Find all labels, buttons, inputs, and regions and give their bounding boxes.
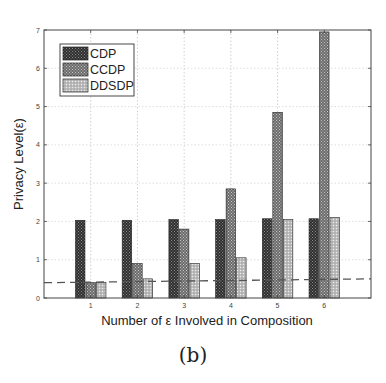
y-tick-label: 4 bbox=[36, 141, 40, 148]
bar-ccdp-6 bbox=[320, 32, 330, 298]
x-tick-label: 3 bbox=[182, 302, 186, 309]
x-tick-label: 4 bbox=[229, 302, 233, 309]
bar-ccdp-5 bbox=[273, 112, 283, 298]
y-axis-label: Privacy Level(ε) bbox=[11, 118, 26, 210]
bar-ddsdp-4 bbox=[237, 258, 247, 298]
x-tick-label: 5 bbox=[276, 302, 280, 309]
y-tick-label: 5 bbox=[36, 103, 40, 110]
legend-swatch-ddsdp bbox=[63, 79, 88, 92]
y-tick-label: 3 bbox=[36, 180, 40, 187]
x-tick-label: 6 bbox=[322, 302, 326, 309]
legend-label-ddsdp: DDSDP bbox=[90, 79, 134, 93]
bar-cdp-3 bbox=[169, 220, 179, 298]
bar-chart: 01234567123456 CDPCCDPDDSDP Number of ε … bbox=[0, 0, 386, 383]
bar-cdp-2 bbox=[122, 220, 132, 298]
legend-label-cdp: CDP bbox=[90, 47, 116, 61]
bar-cdp-5 bbox=[262, 219, 272, 298]
y-tick-label: 7 bbox=[36, 27, 40, 34]
y-tick-label: 1 bbox=[36, 256, 40, 263]
legend-label-ccdp: CCDP bbox=[90, 63, 125, 77]
bar-ddsdp-1 bbox=[96, 283, 106, 298]
bar-cdp-4 bbox=[216, 220, 226, 298]
x-tick-label: 1 bbox=[89, 302, 93, 309]
bar-ccdp-2 bbox=[133, 264, 143, 298]
figure-caption: (b) bbox=[0, 343, 386, 367]
legend-swatch-ccdp bbox=[63, 63, 88, 76]
bar-cdp-6 bbox=[309, 219, 319, 298]
bar-cdp-1 bbox=[75, 220, 85, 298]
y-tick-label: 0 bbox=[36, 295, 40, 302]
legend: CDPCCDPDDSDP bbox=[60, 44, 134, 96]
y-tick-label: 6 bbox=[36, 65, 40, 72]
bar-ccdp-4 bbox=[226, 189, 236, 298]
x-axis-label: Number of ε Involved in Composition bbox=[101, 313, 313, 328]
bar-ddsdp-5 bbox=[283, 220, 293, 298]
bar-ccdp-3 bbox=[179, 229, 189, 298]
legend-swatch-cdp bbox=[63, 47, 88, 60]
x-tick-label: 2 bbox=[135, 302, 139, 309]
bar-ddsdp-6 bbox=[330, 218, 340, 298]
y-tick-label: 2 bbox=[36, 218, 40, 225]
